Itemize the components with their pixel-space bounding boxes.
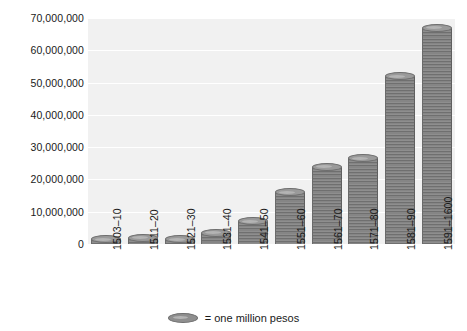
x-axis: 1503–101511–201521–301531–401541–501551–… bbox=[88, 248, 455, 308]
x-axis-tick: 1503–10 bbox=[91, 248, 121, 306]
y-axis-tick-label: 70,000,000 bbox=[0, 13, 84, 24]
y-axis: 010,000,00020,000,00030,000,00040,000,00… bbox=[0, 0, 84, 262]
bar-chart: 010,000,00020,000,00030,000,00040,000,00… bbox=[0, 0, 467, 331]
x-axis-tick-label: 1511–20 bbox=[149, 209, 160, 250]
x-axis-tick: 1581–90 bbox=[385, 248, 415, 306]
coin-top-icon bbox=[312, 163, 342, 171]
chart-legend: = one million pesos bbox=[0, 307, 467, 329]
x-axis-tick: 1551–60 bbox=[275, 248, 305, 306]
x-axis-tick: 1531–40 bbox=[201, 248, 231, 306]
x-axis-tick-label: 1551–60 bbox=[296, 208, 307, 250]
x-axis-tick: 1521–30 bbox=[165, 248, 195, 306]
x-axis-tick-label: 1591–1600 bbox=[443, 197, 454, 250]
coin-top-icon bbox=[422, 24, 452, 32]
x-axis-tick-label: 1503–10 bbox=[112, 208, 123, 250]
x-axis-tick-label: 1531–40 bbox=[222, 208, 233, 250]
legend-label: = one million pesos bbox=[205, 313, 299, 324]
x-axis-tick-label: 1541–50 bbox=[259, 208, 270, 250]
x-axis-tick-label: 1581–90 bbox=[406, 208, 417, 250]
bar-series bbox=[88, 18, 455, 244]
x-axis-tick: 1541–50 bbox=[238, 248, 268, 306]
x-axis-tick-label: 1521–30 bbox=[186, 208, 197, 250]
y-axis-tick-label: 40,000,000 bbox=[0, 110, 84, 121]
y-axis-tick-label: 0 bbox=[0, 239, 84, 250]
y-axis-tick-label: 60,000,000 bbox=[0, 45, 84, 56]
x-axis-tick: 1561–70 bbox=[312, 248, 342, 306]
gridline bbox=[88, 244, 455, 245]
x-axis-tick: 1571–80 bbox=[348, 248, 378, 306]
coin-stack-icon bbox=[168, 313, 198, 323]
y-axis-tick-label: 30,000,000 bbox=[0, 142, 84, 153]
x-axis-tick-label: 1561–70 bbox=[333, 208, 344, 250]
y-axis-tick-label: 20,000,000 bbox=[0, 174, 84, 185]
y-axis-tick-label: 50,000,000 bbox=[0, 78, 84, 89]
x-axis-tick: 1591–1600 bbox=[422, 248, 452, 306]
y-axis-tick-label: 10,000,000 bbox=[0, 207, 84, 218]
x-axis-tick: 1511–20 bbox=[128, 248, 158, 306]
x-axis-tick-label: 1571–80 bbox=[369, 208, 380, 250]
